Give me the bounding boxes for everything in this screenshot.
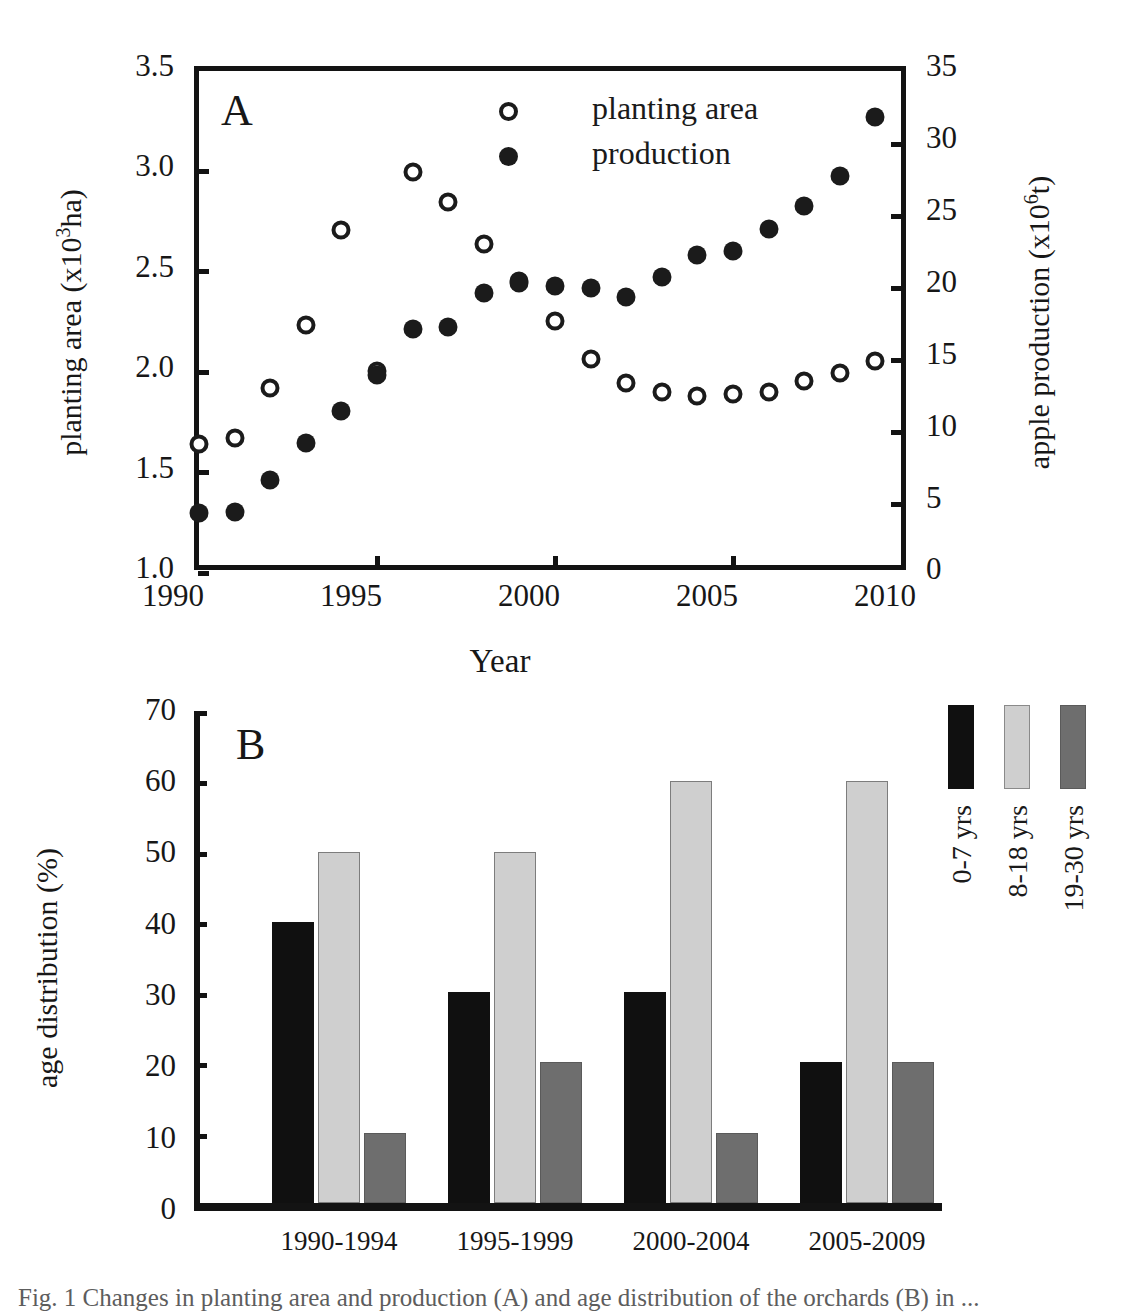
panel-a-point-production-2005 [724,242,743,261]
panel-a-ytick-right-4: 15 [926,338,957,369]
panel-b-category-label-1: 1995-1999 [457,1228,574,1255]
panel-b-legend-label-2: 19-30 yrs [1060,805,1088,912]
panel-b-category-label-3: 2005-2009 [809,1228,926,1255]
panel-b-bar-2000-2004-0-7-yrs [624,992,666,1203]
panel-a-point-planting-area-1993 [296,316,315,335]
panel-b-bars [194,711,942,1211]
panel-b-ytick-3: 40 [64,908,176,939]
panel-b-legend-swatch-0 [948,705,974,789]
panel-a-point-production-2008 [830,167,849,186]
panel-a-xtick-4: 2010 [854,580,916,611]
panel-a-point-production-1996 [403,319,422,338]
panel-b-bar-2000-2004-8-18-yrs [670,781,712,1203]
panel-a-point-production-2004 [688,246,707,265]
panel-b-legend: 0-7 yrs 8-18 yrs 19-30 yrs [940,705,1127,1135]
panel-a-right-axis-title: apple production (x106t) [1021,93,1054,553]
panel-a-point-planting-area-2005 [724,384,743,403]
panel-b-legend-swatch-2 [1060,705,1086,789]
panel-a-point-production-1991 [225,502,244,521]
panel-b-bar-1990-1994-0-7-yrs [272,922,314,1203]
panel-a-ytick-right-2: 25 [926,194,957,225]
panel-a-point-production-1995 [368,365,387,384]
panel-a-right-axis-title-text: apple production (x106t) [1022,176,1055,469]
panel-a-point-planting-area-1998 [474,235,493,254]
panel-b-yaxis-title: age distribution (%) [32,758,62,1178]
panel-a-point-production-2007 [795,197,814,216]
panel-a-point-production-1992 [261,470,280,489]
panel-a-point-planting-area-1991 [225,428,244,447]
panel-b-legend-swatch-1 [1004,705,1030,789]
panel-a-left-axis-title-text: planting area (x103ha) [54,189,87,456]
panel-a-point-planting-area-2002 [617,374,636,393]
panel-a-point-planting-area-2006 [759,382,778,401]
panel-a-point-planting-area-2000 [546,311,565,330]
panel-b-ytick-2: 50 [64,836,176,867]
panel-a-point-planting-area-2008 [830,364,849,383]
panel-b-bar-1990-1994-19-30-yrs [364,1133,406,1203]
panel-a-point-production-1999 [510,273,529,292]
panel-a-ytick-left-0: 3.5 [64,50,174,81]
panel-b-plot-area: B [194,711,942,1211]
panel-a-ytick-right-3: 20 [926,266,957,297]
panel-b-category-label-0: 1990-1994 [281,1228,398,1255]
panel-b-ytick-1: 60 [64,765,176,796]
panel-b-bar-1990-1994-8-18-yrs [318,852,360,1203]
panel-a-point-production-2001 [581,279,600,298]
panel-a-point-planting-area-2007 [795,372,814,391]
panel-a-point-production-2006 [759,220,778,239]
panel-a-ytick-mark-left-4 [198,571,209,576]
panel-a-point-planting-area-2003 [652,382,671,401]
panel-a-point-production-2003 [652,267,671,286]
panel-b-ytick-6: 10 [64,1122,176,1153]
panel-a-point-planting-area-2009 [866,352,885,371]
panel-b-legend-label-1: 8-18 yrs [1004,805,1032,898]
panel-a-ytick-right-6: 5 [926,482,942,513]
panel-b-ytick-4: 30 [64,979,176,1010]
panel-a-point-production-1997 [439,318,458,337]
panel-b-category-label-2: 2000-2004 [633,1228,750,1255]
panel-b-bar-1995-1999-19-30-yrs [540,1062,582,1203]
panel-a-point-production-2000 [546,276,565,295]
panel-a-xtick-0: 1990 [142,580,204,611]
panel-a-data-points [199,71,901,565]
panel-a-point-production-1998 [474,283,493,302]
panel-a-point-production-1993 [296,433,315,452]
panel-a-left-axis-title: planting area (x103ha) [53,123,86,523]
panel-b-legend-label-0: 0-7 yrs [948,805,976,884]
panel-b-bar-2005-2009-8-18-yrs [846,781,888,1203]
panel-a-ytick-right-5: 10 [926,410,957,441]
panel-a-point-production-2009 [866,108,885,127]
panel-a-point-planting-area-1994 [332,221,351,240]
figure-caption: Fig. 1 Changes in planting area and prod… [18,1283,1118,1313]
panel-a-xtick-3: 2005 [676,580,738,611]
panel-a-xaxis-title: Year [0,645,1000,678]
panel-a-ytick-right-0: 35 [926,50,957,81]
panel-b-bar-1995-1999-8-18-yrs [494,852,536,1203]
panel-a-point-planting-area-1997 [439,193,458,212]
panel-b-bar-2005-2009-0-7-yrs [800,1062,842,1203]
panel-b-bar-2000-2004-19-30-yrs [716,1133,758,1203]
panel-b-ytick-5: 20 [64,1050,176,1081]
panel-a-point-planting-area-1990 [190,434,209,453]
panel-a-point-production-1990 [190,504,209,523]
panel-a-xtick-2: 2000 [498,580,560,611]
panel-b-bar-2005-2009-19-30-yrs [892,1062,934,1203]
panel-a-point-production-2002 [617,288,636,307]
panel-b-ytick-0: 70 [64,694,176,725]
panel-a-ytick-right-1: 30 [926,122,957,153]
panel-a-ytick-right-7: 0 [926,553,942,584]
panel-a-point-planting-area-1996 [403,162,422,181]
panel-b-bar-1995-1999-0-7-yrs [448,992,490,1203]
panel-a-point-production-1994 [332,401,351,420]
panel-a-point-planting-area-1992 [261,378,280,397]
panel-a-xtick-1: 1995 [320,580,382,611]
panel-a-point-planting-area-2004 [688,386,707,405]
panel-a-plot-area: A planting area [194,66,906,570]
panel-b-ytick-7: 0 [64,1193,176,1224]
panel-a-point-planting-area-2001 [581,350,600,369]
